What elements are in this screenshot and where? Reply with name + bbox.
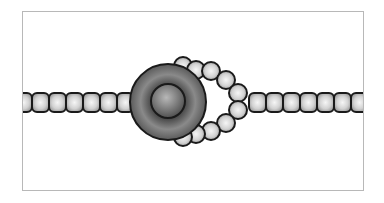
loop-bead bbox=[229, 84, 247, 102]
central-histone-disk bbox=[130, 64, 206, 140]
bead bbox=[32, 93, 49, 112]
right-bead-chain bbox=[249, 93, 368, 112]
disk-core bbox=[151, 84, 185, 118]
bead bbox=[300, 93, 317, 112]
left-bead-chain bbox=[15, 93, 134, 112]
bead bbox=[283, 93, 300, 112]
bead bbox=[351, 93, 368, 112]
bead bbox=[266, 93, 283, 112]
bead bbox=[49, 93, 66, 112]
chromatin-diagram bbox=[0, 0, 384, 203]
bead bbox=[249, 93, 266, 112]
bead bbox=[317, 93, 334, 112]
bead bbox=[83, 93, 100, 112]
bead bbox=[334, 93, 351, 112]
bead bbox=[100, 93, 117, 112]
bead bbox=[66, 93, 83, 112]
bead bbox=[15, 93, 32, 112]
